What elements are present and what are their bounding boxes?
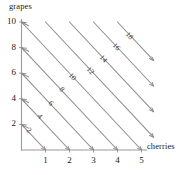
x-tick-label: 1 (39, 155, 53, 165)
budget-lines-chart: grapes cherries 246810 12345 24681012141… (0, 0, 181, 175)
y-tick-label: 8 (0, 42, 16, 52)
budget-line (22, 99, 70, 150)
x-axis-title: cherries (147, 141, 175, 151)
x-tick-label: 3 (87, 155, 101, 165)
y-tick-label: 4 (0, 93, 16, 103)
x-tick-label: 4 (111, 155, 125, 165)
y-tick-label: 2 (0, 118, 16, 128)
contour-lines-group (22, 22, 154, 150)
y-tick-label: 6 (0, 67, 16, 77)
budget-line (70, 22, 154, 112)
x-tick-label: 2 (63, 155, 77, 165)
x-tick-label: 5 (135, 155, 149, 165)
budget-line (22, 73, 94, 150)
budget-line (46, 22, 154, 137)
budget-line (118, 22, 154, 60)
y-axis-title: grapes (9, 1, 32, 11)
budget-line (22, 22, 142, 150)
y-tick-label: 10 (0, 16, 16, 26)
